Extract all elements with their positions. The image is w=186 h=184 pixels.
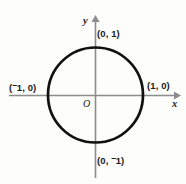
label-bottom-open: (0,: [97, 155, 111, 166]
point-label-left: (–1, 0): [9, 81, 36, 92]
origin-label: O: [83, 99, 90, 109]
point-label-right: (1, 0): [147, 81, 170, 91]
label-bottom-rest: 1): [116, 155, 125, 166]
point-label-bottom: (0, –1): [97, 154, 124, 165]
point-label-top: (0, 1): [97, 29, 120, 39]
y-axis-label: y: [83, 16, 88, 27]
x-axis-label: x: [172, 99, 177, 110]
label-left-rest: 1, 0): [17, 82, 37, 93]
y-axis-arrowhead: [92, 15, 100, 22]
unit-circle-figure: (0, 1) (1, 0) (–1, 0) (0, –1) y x O: [0, 0, 186, 184]
